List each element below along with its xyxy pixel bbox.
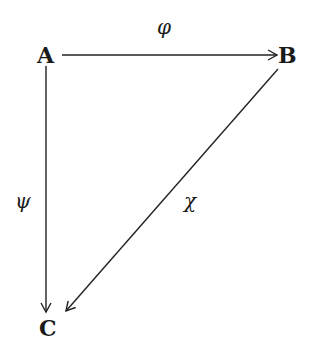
node-b: B [278,42,297,68]
label-chi: χ [182,189,198,213]
label-phi: φ [157,15,171,39]
label-psi: ψ [15,189,31,213]
arrow-chi-b-to-c [66,69,278,311]
node-a: A [36,42,55,68]
node-c: C [39,315,57,341]
commutative-diagram: A B C φ ψ χ [0,0,311,353]
